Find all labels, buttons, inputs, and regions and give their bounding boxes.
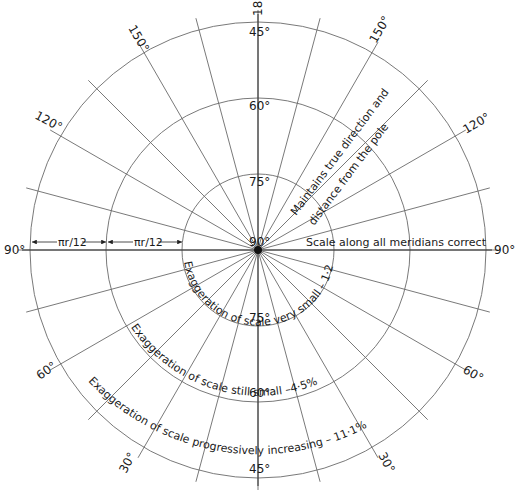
meridian-label-150-right: 150° <box>366 13 393 45</box>
meridian-line <box>258 250 490 312</box>
annotation-exaggeration-75: Exaggeration of scale very small – 1·2% <box>0 0 336 329</box>
meridian-label-90-right: 90° <box>494 243 515 257</box>
parallel-label-60-top: 60° <box>249 99 270 113</box>
dimension-arrows: πr/12 πr/12 <box>32 236 182 249</box>
meridian-label-150-left: 150° <box>125 23 152 55</box>
meridian-label-60-right: 60° <box>461 362 486 385</box>
meridian-line <box>196 18 258 250</box>
meridian-line <box>50 130 258 250</box>
meridian-label-90-left: 90° <box>4 243 25 257</box>
parallel-label-45-top: 45° <box>249 25 270 39</box>
meridian-label-30-right: 30° <box>375 450 397 475</box>
annotation-true-direction-line1: Maintains true direction and <box>288 86 392 218</box>
meridian-line <box>26 250 258 312</box>
meridian-label-120-left: 120° <box>33 108 65 134</box>
meridian-label-120-right: 120° <box>461 110 493 137</box>
dimension-label-outer: πr/12 <box>58 236 87 249</box>
meridian-label-60-left: 60° <box>34 359 59 383</box>
meridian-label-180: 180° <box>251 0 265 16</box>
meridian-line <box>138 42 258 250</box>
polar-projection-diagram: πr/12 πr/12 90° 75° 60° 45° 75° 60° 45° … <box>0 0 517 498</box>
annotations: Maintains true direction and distance fr… <box>0 0 487 457</box>
parallel-label-75-top: 75° <box>249 175 270 189</box>
annotation-meridians-correct: Scale along all meridians correct <box>306 236 487 249</box>
pole-label: 90° <box>249 235 270 249</box>
meridian-label-30-left: 30° <box>116 450 138 475</box>
annotation-exaggeration-60: Exaggeration of scale still small –4·5% <box>128 321 319 398</box>
meridian-line <box>88 80 258 250</box>
parallel-label-45-bottom: 45° <box>249 462 270 476</box>
meridian-line <box>258 80 428 250</box>
dimension-label-inner: πr/12 <box>134 236 163 249</box>
